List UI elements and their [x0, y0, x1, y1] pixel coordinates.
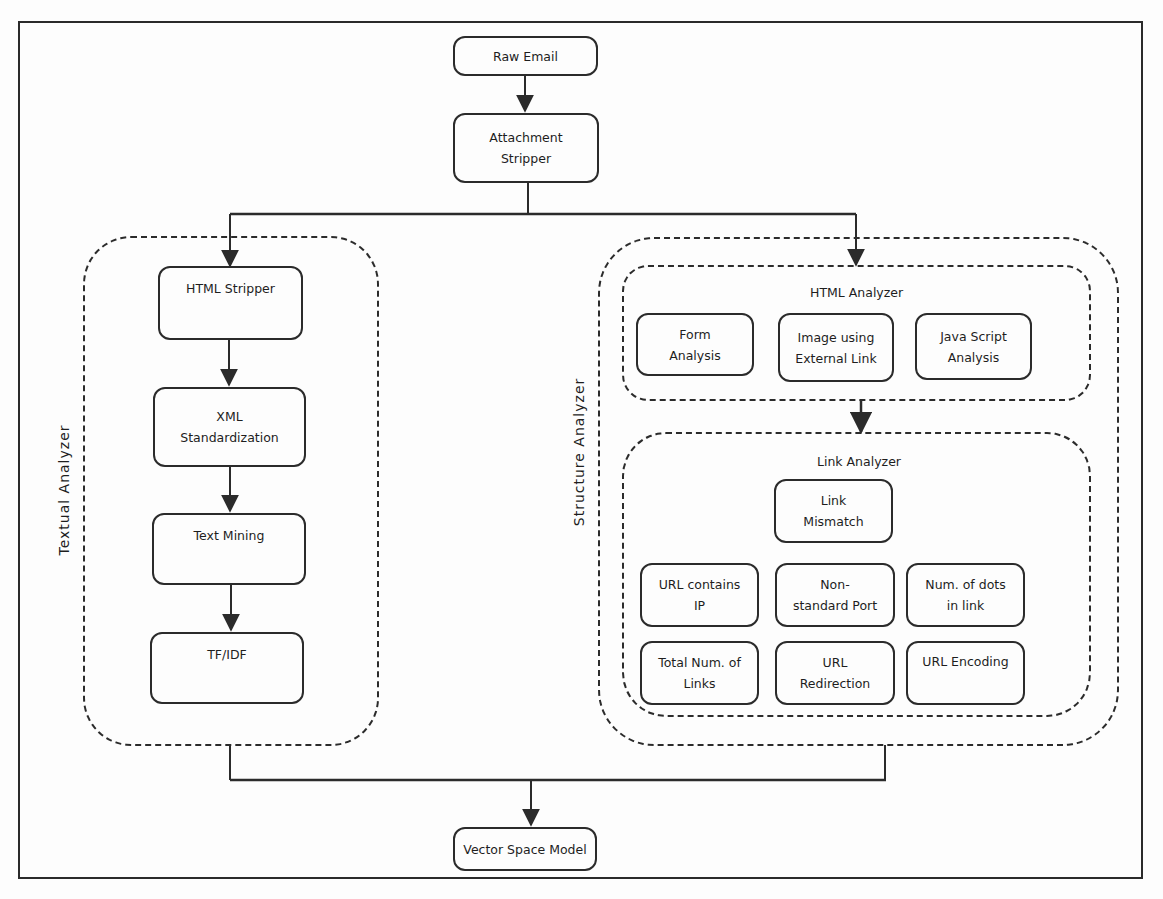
url-redirection-line1: URL: [800, 652, 871, 673]
num-dots-in-link-node: Num. of dots in link: [906, 563, 1025, 627]
form-analysis-line2: Analysis: [669, 345, 721, 366]
form-analysis-node: Form Analysis: [636, 313, 754, 376]
link-mismatch-node: Link Mismatch: [774, 479, 893, 543]
html-stripper-node: HTML Stripper: [158, 266, 303, 340]
vector-space-model-node: Vector Space Model: [453, 827, 597, 871]
xml-standardization-line2: Standardization: [180, 427, 279, 448]
link-mismatch-line2: Mismatch: [803, 511, 863, 532]
javascript-analysis-line1: Java Script: [940, 326, 1007, 347]
url-contains-ip-line2: IP: [659, 595, 741, 616]
xml-standardization-node: XML Standardization: [153, 387, 306, 467]
phishing-detection-diagram: Raw Email Attachment Stripper Textual An…: [0, 0, 1163, 899]
url-contains-ip-line1: URL contains: [659, 574, 741, 595]
raw-email-node: Raw Email: [453, 36, 598, 76]
text-mining-label: Text Mining: [194, 525, 265, 546]
text-mining-node: Text Mining: [152, 513, 306, 585]
javascript-analysis-line2: Analysis: [940, 347, 1007, 368]
link-mismatch-line1: Link: [803, 490, 863, 511]
non-standard-port-node: Non- standard Port: [775, 563, 895, 627]
link-analyzer-label: Link Analyzer: [817, 454, 901, 469]
html-stripper-label: HTML Stripper: [186, 278, 275, 299]
url-encoding-node: URL Encoding: [906, 641, 1025, 705]
javascript-analysis-node: Java Script Analysis: [915, 313, 1032, 380]
attachment-stripper-label-line1: Attachment: [489, 127, 562, 148]
non-standard-port-line2: standard Port: [793, 595, 877, 616]
url-contains-ip-node: URL contains IP: [640, 563, 759, 627]
url-redirection-node: URL Redirection: [775, 641, 895, 705]
structure-analyzer-label: Structure Analyzer: [571, 377, 587, 527]
url-encoding-label: URL Encoding: [922, 651, 1008, 672]
num-dots-in-link-line2: in link: [925, 595, 1005, 616]
total-num-links-line1: Total Num. of: [658, 652, 741, 673]
xml-standardization-line1: XML: [180, 406, 279, 427]
html-analyzer-label: HTML Analyzer: [810, 285, 903, 300]
url-redirection-line2: Redirection: [800, 673, 871, 694]
image-external-link-line2: External Link: [795, 348, 876, 369]
attachment-stripper-node: Attachment Stripper: [453, 113, 599, 183]
total-num-links-line2: Links: [658, 673, 741, 694]
num-dots-in-link-line1: Num. of dots: [925, 574, 1005, 595]
textual-analyzer-label: Textual Analyzer: [56, 420, 72, 560]
attachment-stripper-label-line2: Stripper: [489, 148, 562, 169]
form-analysis-line1: Form: [669, 324, 721, 345]
total-num-links-node: Total Num. of Links: [640, 641, 759, 705]
non-standard-port-line1: Non-: [793, 574, 877, 595]
vector-space-model-label: Vector Space Model: [463, 839, 586, 860]
raw-email-label: Raw Email: [493, 46, 558, 67]
image-external-link-node: Image using External Link: [778, 313, 894, 382]
tf-idf-node: TF/IDF: [150, 632, 304, 704]
image-external-link-line1: Image using: [795, 327, 876, 348]
tf-idf-label: TF/IDF: [207, 644, 247, 665]
